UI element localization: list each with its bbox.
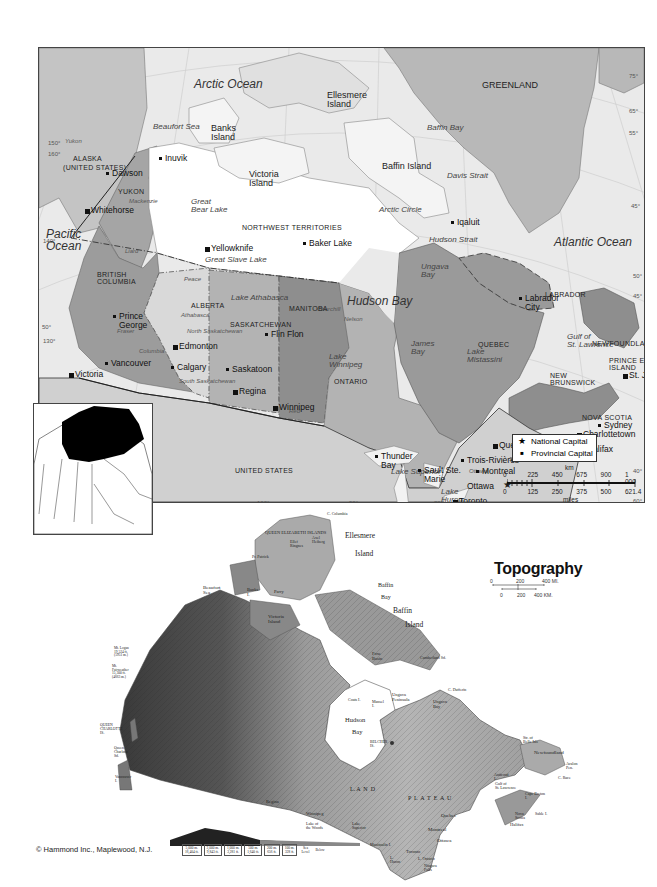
topography-label: Manitoulin I. — [370, 843, 391, 847]
square-icon — [453, 500, 458, 503]
water-body-label: James Bay — [411, 340, 435, 356]
topography-label: Baffin — [378, 582, 393, 588]
topography-label: L. Ontario — [418, 857, 435, 861]
square-icon — [173, 345, 178, 350]
scale-ticks-bottom: 0125250375500621.4 — [505, 488, 640, 496]
topography-label: Gulf of St. Lawrence — [495, 782, 516, 790]
degree-label: 45° — [631, 203, 640, 209]
elevation-legend-cell: 500 m.1,640 ft. — [244, 844, 262, 856]
city-label: Calgary — [177, 363, 206, 372]
topography-label: Toronto — [406, 850, 420, 855]
topography-label: Ungava Bay — [433, 700, 447, 709]
topography-label: Bay — [352, 729, 362, 736]
scale-tick-label: 900 — [601, 471, 612, 478]
region-label: ALBERTA — [191, 302, 224, 309]
elevation-legend-cell: 1,000 m.3,281 ft. — [224, 844, 242, 856]
region-label: PRINCE EDWARD ISLAND — [609, 357, 645, 371]
water-body-label: Lake Mistassini — [467, 348, 502, 364]
city-label: St. John's — [629, 371, 645, 380]
city-dot-icon — [106, 172, 109, 175]
topography-label: Axel Heiberg — [312, 536, 325, 544]
island-label: Baffin Island — [382, 162, 431, 171]
degree-label: 45° — [633, 293, 642, 299]
square-icon: ■ — [517, 450, 527, 456]
island-label: Victoria Island — [249, 170, 279, 188]
scale-tick-label: 621.4 — [625, 488, 641, 495]
topography-scale-bar: 0200400 MI. 0200400 KM. — [492, 578, 572, 598]
topography-label: Mansel I. — [372, 700, 384, 708]
city-label: Inuvik — [165, 154, 187, 163]
scale-unit-km: km — [565, 464, 574, 471]
topography-label: Foxe Basin — [372, 652, 382, 661]
scale-tick-label: 0 — [500, 592, 503, 598]
topography-label: Baffin — [393, 607, 412, 615]
city-dot-icon — [159, 157, 162, 160]
water-body-label: Hudson Strait — [429, 236, 477, 244]
topography-label: L. Huron — [390, 856, 400, 864]
region-label: NEWFOUNDLAND — [592, 340, 645, 347]
region-label: BRITISH COLUMBIA — [97, 271, 136, 285]
scale-tick-label: 675 — [576, 471, 587, 478]
topography-label: Str. of Belle Isle — [523, 736, 538, 744]
topography-label: Island — [355, 550, 373, 558]
city-label: Sault Ste. Marie — [424, 466, 461, 483]
elevation-legend-cell: 200 m.656 ft. — [264, 844, 280, 856]
topography-label: Pr. Patrick — [252, 555, 269, 559]
elevation-legend-cell: 5,000 m.16,404 ft. — [182, 844, 202, 856]
scale-tick-label: 0 — [503, 471, 507, 478]
topography-label: Niagara Falls — [424, 864, 437, 872]
city-label: Thunder Bay — [381, 452, 413, 469]
water-body-label: Lake Athabasca — [231, 294, 288, 302]
city-label: Baker Lake — [309, 239, 352, 248]
region-label: UNITED STATES — [235, 467, 293, 474]
city-label: Iqaluit — [457, 218, 480, 227]
elevation-legend-cell: Below — [313, 847, 326, 853]
region-label: MANITOBA — [289, 305, 328, 312]
city-dot-icon — [375, 455, 378, 458]
city-label: Whitehorse — [91, 206, 134, 215]
topography-label: Quebec — [441, 813, 456, 818]
scale-tick-label: 125 — [527, 488, 538, 495]
region-label: SASKATCHEWAN — [230, 321, 292, 328]
square-icon — [623, 374, 628, 379]
city-label: Dawson — [112, 169, 143, 178]
water-body-label: Beaufort Sea — [153, 123, 200, 131]
topography-label: Newfoundland — [534, 750, 564, 755]
scale-bar-graphic — [507, 479, 637, 487]
city-label: Labrador City — [525, 294, 559, 311]
water-body-label: Ungava Bay — [421, 263, 449, 279]
topography-label: Montreal — [428, 827, 446, 832]
degree-label: 90° — [349, 500, 358, 503]
topography-label: Bay — [381, 594, 391, 600]
city-label: Sydney — [604, 421, 632, 430]
topography-label: Ellesmere — [345, 532, 375, 540]
topography-label: Winnipeg — [306, 812, 324, 817]
river-label: Peace — [184, 276, 201, 282]
elevation-legend-cell: SeaLevel — [299, 845, 311, 855]
river-label: South Saskatchewan — [179, 378, 235, 384]
scale-tick-label: 375 — [576, 488, 587, 495]
square-icon — [493, 444, 498, 449]
scale-ticks-top: 02254506759001 000 — [505, 471, 640, 479]
legend-item-provincial-capital: ■ Provincial Capital — [513, 447, 596, 459]
river-label: North Saskatchewan — [187, 328, 242, 334]
ocean-label: Hudson Bay — [347, 295, 412, 307]
degree-label: 160° — [48, 151, 60, 157]
legend-item-national-capital: ★ National Capital — [513, 435, 596, 447]
star-icon: ★ — [517, 436, 527, 446]
topography-label: P L A T E A U — [408, 795, 451, 801]
region-label: NEW BRUNSWICK — [550, 372, 595, 386]
topography-label: Beaufort Sea — [203, 585, 221, 595]
scale-tick-label: 250 — [552, 488, 563, 495]
elevation-legend: 5,000 m.16,404 ft.3,000 m.9,843 ft.1,000… — [182, 843, 327, 857]
city-dot-icon — [303, 242, 306, 245]
island-label: Banks Island — [211, 124, 236, 142]
city-dot-icon — [113, 315, 116, 318]
topography-label: Ungava Peninsula — [392, 693, 410, 702]
region-label: QUEBEC — [478, 341, 509, 348]
topography-label: Regina — [266, 800, 279, 805]
city-label: Flin Flon — [271, 330, 304, 339]
topography-label: BELCHER IS. — [370, 741, 387, 749]
square-icon — [69, 373, 74, 378]
topography-label: Coats I. — [348, 698, 360, 702]
